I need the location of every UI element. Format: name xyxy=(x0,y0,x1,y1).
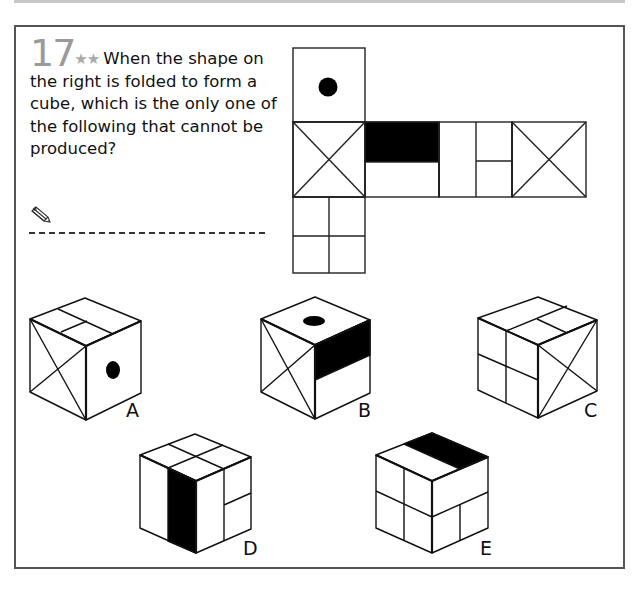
net-face-x-left xyxy=(293,122,365,197)
net-face-quadrants xyxy=(293,197,365,273)
option-cube-e[interactable] xyxy=(376,433,488,553)
option-cube-b[interactable] xyxy=(261,297,370,419)
option-label-d[interactable]: D xyxy=(243,537,258,559)
option-label-b[interactable]: B xyxy=(358,399,371,421)
option-cube-d[interactable] xyxy=(140,434,251,553)
net-face-x-right xyxy=(512,122,586,197)
net-face-split xyxy=(439,122,512,197)
option-cube-c[interactable] xyxy=(478,297,597,418)
dot-icon xyxy=(303,316,325,326)
option-label-c[interactable]: C xyxy=(584,399,597,421)
net-face-dot xyxy=(293,48,365,122)
option-cube-a[interactable] xyxy=(30,298,141,420)
dot-icon xyxy=(106,361,120,379)
figure-canvas xyxy=(0,0,639,589)
net-face-half-black xyxy=(365,122,439,197)
dot-icon xyxy=(319,78,338,97)
option-label-e[interactable]: E xyxy=(480,537,492,559)
option-label-a[interactable]: A xyxy=(126,399,139,421)
cube-net xyxy=(293,48,586,273)
